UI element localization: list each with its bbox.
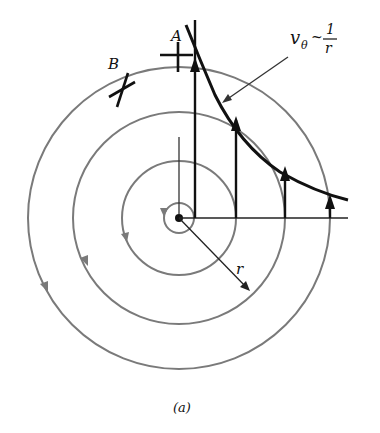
arrow-icon — [160, 208, 168, 217]
arrow-icon — [121, 232, 129, 242]
velocity-symbol: v — [290, 27, 300, 48]
velocity-law-label: v θ ~ 1 r — [290, 21, 337, 56]
velocity-subscript: θ — [301, 39, 308, 52]
fraction-denominator: r — [325, 40, 333, 56]
radius-label: r — [236, 260, 244, 278]
fraction-numerator: 1 — [326, 21, 335, 37]
streamline-direction-arrows — [40, 208, 168, 292]
figure-caption: (a) — [173, 400, 191, 415]
proportional-sign: ~ — [311, 29, 323, 45]
leader-arrowhead-icon — [222, 94, 232, 103]
velocity-arrowheads — [190, 57, 335, 209]
arrow-icon — [40, 281, 48, 292]
point-a-label: A — [169, 27, 182, 45]
point-b-label: B — [107, 55, 119, 73]
free-vortex-diagram: r v θ ~ 1 r A B (a) — [0, 0, 380, 433]
